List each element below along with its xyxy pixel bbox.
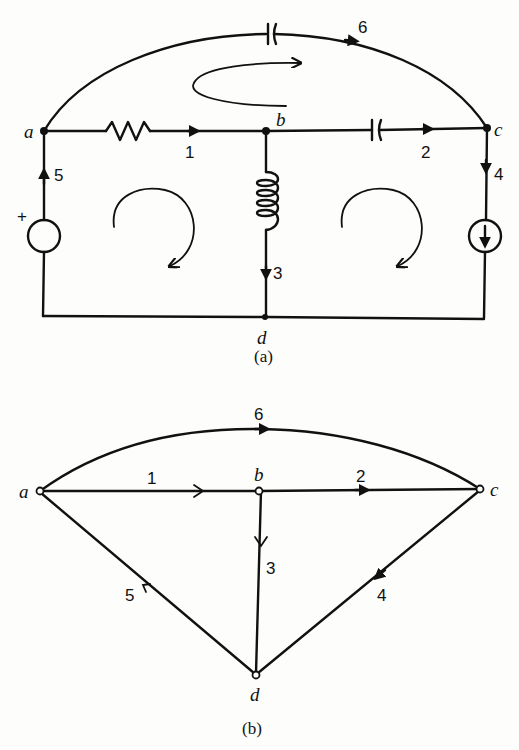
node-b-dot (262, 127, 270, 135)
caption-a: (a) (254, 347, 273, 366)
node-d-dot (262, 314, 268, 320)
branch-label-4: 4 (494, 165, 503, 184)
edge-4 (258, 491, 479, 673)
branch-3-inductor (257, 131, 278, 317)
branch-5-voltage-source: + (17, 131, 60, 316)
node-a (37, 488, 44, 495)
node-c (477, 486, 484, 493)
branch-4-current-source (469, 128, 501, 318)
node-label-a: a (24, 121, 34, 142)
loop-arrow-right (342, 189, 422, 266)
edge-label-1: 1 (147, 469, 156, 488)
edge-3 (256, 491, 261, 673)
node-d (253, 672, 260, 679)
graph-node-label-b: b (254, 464, 264, 485)
node-c-dot (483, 124, 491, 132)
node-label-c: c (494, 119, 503, 140)
edge-label-6: 6 (254, 405, 263, 424)
branch-label-6: 6 (358, 18, 367, 37)
edge-label-5: 5 (125, 586, 134, 605)
graph-node-label-d: d (250, 684, 260, 705)
source-polarity-plus: + (17, 207, 27, 226)
circuit-diagram-a: + a b c d 1 2 3 4 5 6 (a) (17, 18, 503, 366)
caption-b: (b) (242, 719, 262, 738)
edge-label-2: 2 (356, 467, 365, 486)
branch-1-resistor (44, 122, 266, 140)
graph-node-label-c: c (490, 479, 499, 500)
edge-5 (41, 493, 254, 673)
loop-arrow-top (193, 63, 300, 106)
node-label-b: b (276, 109, 286, 130)
node-label-d: d (257, 327, 267, 348)
branch-label-5: 5 (54, 166, 63, 185)
edge-2 (259, 489, 480, 491)
edge-label-3: 3 (266, 559, 275, 578)
loop-arrow-left (114, 189, 194, 266)
graph-node-label-a: a (19, 481, 29, 502)
node-b (256, 488, 263, 495)
branch-label-1: 1 (185, 143, 194, 162)
graph-diagram-b: a b c d 1 2 3 4 5 6 (b) (19, 405, 499, 738)
branch-6-capacitor (44, 24, 487, 131)
branch-2-capacitor (266, 120, 487, 140)
edge-label-4: 4 (377, 586, 386, 605)
branch-label-2: 2 (421, 143, 430, 162)
node-a-dot (40, 127, 48, 135)
branch-label-3: 3 (273, 264, 282, 283)
